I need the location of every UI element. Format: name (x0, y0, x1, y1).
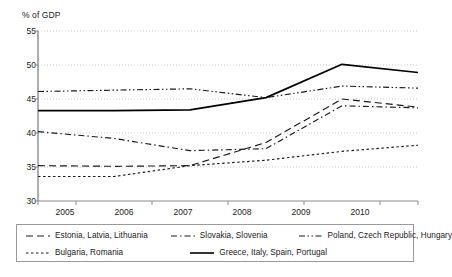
series-line (38, 106, 418, 151)
legend-label-slovakia-slovenia: Slovakia, Slovenia (200, 231, 268, 240)
legend-swatch-dash-dot (170, 232, 196, 240)
legend-swatch-solid (189, 249, 215, 257)
chart-legend: Estonia, Latvia, Lithuania Slovakia, Slo… (16, 224, 414, 262)
legend-item-bulgaria-romania: Bulgaria, Romania (25, 248, 123, 257)
legend-item-poland-czech-hungary: Poland, Czech Republic, Hungary (298, 231, 452, 240)
legend-swatch-dash-dot-dot (298, 232, 324, 240)
legend-item-slovakia-slovenia: Slovakia, Slovenia (170, 231, 268, 240)
series-lines (38, 64, 418, 176)
series-line (38, 86, 418, 98)
axis-lines (38, 31, 418, 201)
legend-label-baltics: Estonia, Latvia, Lithuania (55, 231, 148, 240)
axis-ticks (35, 31, 419, 205)
legend-swatch-dotted (25, 249, 51, 257)
series-line (38, 64, 418, 110)
legend-label-bulgaria-romania: Bulgaria, Romania (55, 248, 123, 257)
legend-swatch-dashed (25, 232, 51, 240)
legend-item-baltics: Estonia, Latvia, Lithuania (25, 231, 148, 240)
legend-label-poland-czech-hungary: Poland, Czech Republic, Hungary (328, 231, 452, 240)
legend-label-greece-italy-spain-portugal: Greece, Italy, Spain, Portugal (219, 248, 327, 257)
gridlines (38, 31, 418, 167)
legend-item-greece-italy-spain-portugal: Greece, Italy, Spain, Portugal (189, 248, 327, 257)
